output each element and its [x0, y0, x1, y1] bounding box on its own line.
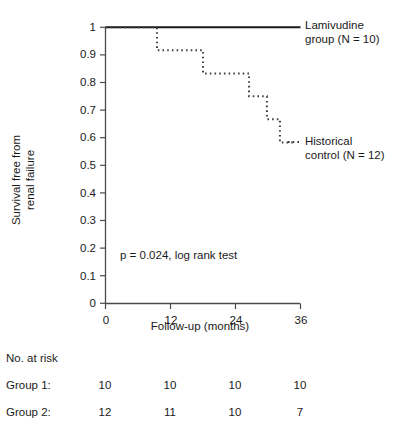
y-tick-label: 0.5 [60, 159, 96, 171]
legend-label-historical-line1: Historical [305, 135, 352, 147]
y-tick-label: 0.7 [60, 104, 96, 116]
risk-table: No. at risk Group 1: 10 10 10 10 Group 2… [0, 352, 404, 437]
legend-label-lamivudine-line2: group (N = 10) [305, 32, 379, 46]
y-tick-0.3: 0.3 [60, 214, 96, 226]
plot-area: 1 0.9 0.8 0.7 0.6 0.5 0.4 0.3 0.2 0.1 0 … [0, 0, 404, 340]
legend-label-lamivudine-line1: Lamivudine [305, 19, 364, 31]
risk-cell: 12 [88, 406, 122, 418]
y-tick-label: 0.4 [60, 187, 96, 199]
y-tick-0.7: 0.7 [60, 104, 96, 116]
x-tick-label: 36 [295, 314, 308, 326]
y-tick-1: 1 [60, 21, 96, 33]
y-tick-label: 0.8 [60, 76, 96, 88]
y-axis-title-line1: Survival free from [10, 135, 22, 225]
p-value-annotation: p = 0.024, log rank test [120, 249, 237, 261]
y-axis-title: Survival free from renal failure [5, 95, 41, 265]
y-tick-label: 0 [60, 297, 96, 309]
risk-cell: 10 [218, 379, 252, 391]
legend-item-lamivudine: Lamivudine group (N = 10) [305, 18, 379, 46]
y-axis-ticks [100, 27, 105, 303]
risk-row-label: Group 1: [6, 379, 51, 391]
risk-row-label: Group 2: [6, 406, 51, 418]
y-tick-label: 1 [60, 21, 96, 33]
risk-cell: 7 [283, 406, 317, 418]
y-tick-0.5: 0.5 [60, 159, 96, 171]
y-tick-0.6: 0.6 [60, 131, 96, 143]
risk-cell: 11 [153, 406, 187, 418]
y-tick-0.4: 0.4 [60, 187, 96, 199]
risk-cell: 10 [153, 379, 187, 391]
x-axis-ticks [106, 304, 301, 310]
y-tick-label: 0.9 [60, 48, 96, 60]
y-tick-0: 0 [60, 297, 96, 309]
x-axis-title: Follow-up (months) [105, 320, 295, 332]
y-tick-label: 0.1 [60, 270, 96, 282]
y-tick-0.9: 0.9 [60, 48, 96, 60]
risk-cell: 10 [283, 379, 317, 391]
series-line-historical [106, 27, 293, 142]
kaplan-meier-figure: 1 0.9 0.8 0.7 0.6 0.5 0.4 0.3 0.2 0.1 0 … [0, 0, 404, 437]
table-row: Group 1: 10 10 10 10 [0, 379, 404, 399]
y-axis-title-line2: renal failure [23, 150, 35, 210]
y-tick-label: 0.3 [60, 214, 96, 226]
legend-item-historical: Historical control (N = 12) [305, 134, 385, 162]
y-tick-0.1: 0.1 [60, 270, 96, 282]
risk-table-title: No. at risk [6, 352, 58, 364]
risk-cell: 10 [218, 406, 252, 418]
y-tick-0.2: 0.2 [60, 242, 96, 254]
risk-cell: 10 [88, 379, 122, 391]
y-tick-0.8: 0.8 [60, 76, 96, 88]
y-tick-label: 0.2 [60, 242, 96, 254]
table-row: Group 2: 12 11 10 7 [0, 406, 404, 426]
legend-label-historical-line2: control (N = 12) [305, 148, 385, 162]
y-tick-label: 0.6 [60, 131, 96, 143]
